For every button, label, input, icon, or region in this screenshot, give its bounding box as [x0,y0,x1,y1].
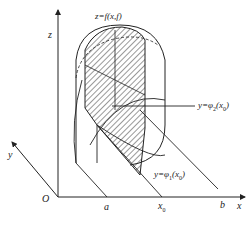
tick-a-label: a [104,202,109,212]
origin-label: O [42,194,49,204]
x-axis-label: x [237,201,241,211]
z-axis-label: z [48,30,52,40]
y-axis [12,142,58,197]
phi2-label: y=φ2(x0) [198,101,229,112]
tick-b-label: b [220,200,225,210]
left-arc [74,80,82,163]
surface-label: z=f(x,f) [95,12,122,21]
volume-diagram [0,0,250,226]
phi1-label: y=φ1(x0) [154,170,185,181]
y-axis-label: y [8,150,12,160]
tick-x0-label: x0 [158,201,165,213]
base-line-a [76,163,107,197]
